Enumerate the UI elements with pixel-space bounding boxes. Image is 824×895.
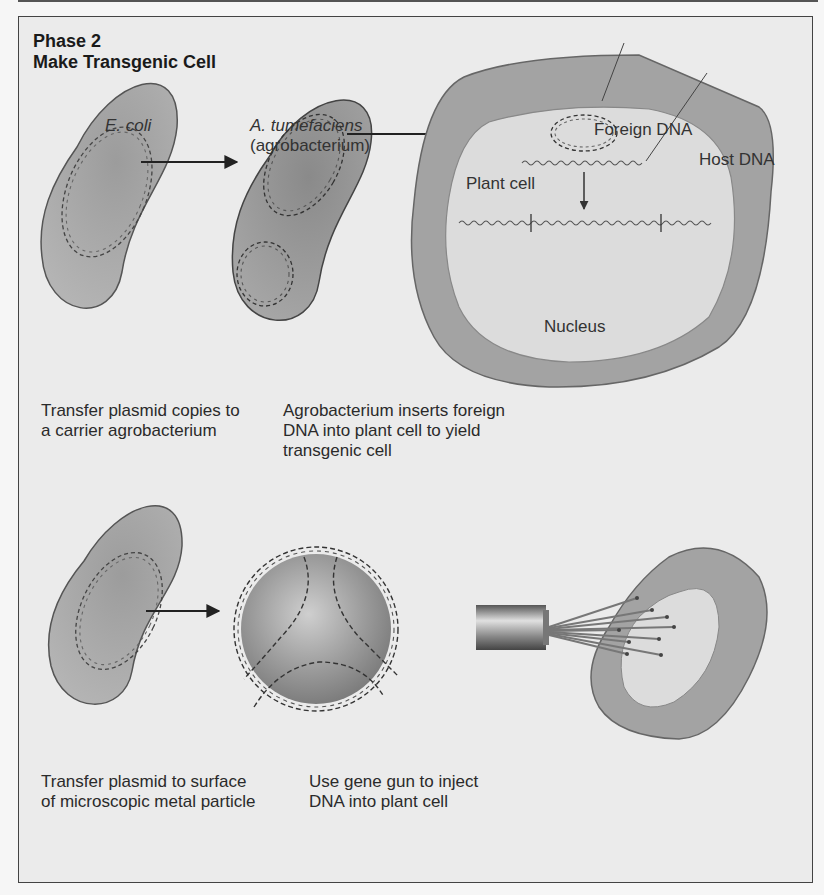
target-plant-cell — [549, 548, 767, 739]
top-rule — [18, 0, 818, 2]
e-coli-cell-bottom — [49, 506, 182, 704]
diagram-frame: Phase 2 Make Transgenic Cell — [18, 16, 813, 883]
caption-bottom-left: Transfer plasmid to surface of microscop… — [41, 772, 255, 812]
caption-top-right: Agrobacterium inserts foreign DNA into p… — [283, 401, 505, 461]
label-host-dna: Host DNA — [699, 150, 775, 170]
label-a-tumefaciens: A. tumefaciens — [250, 116, 362, 136]
label-foreign-dna: Foreign DNA — [594, 120, 692, 140]
caption-bottom-right: Use gene gun to inject DNA into plant ce… — [309, 772, 478, 812]
label-nucleus: Nucleus — [544, 317, 605, 337]
caption-top-left: Transfer plasmid copies to a carrier agr… — [41, 401, 240, 441]
gene-gun — [476, 605, 549, 650]
label-agrobacterium: (agrobacterium) — [250, 136, 370, 156]
label-e-coli: E. coli — [105, 116, 151, 136]
metal-particle — [234, 547, 399, 711]
label-plant-cell: Plant cell — [466, 174, 535, 194]
